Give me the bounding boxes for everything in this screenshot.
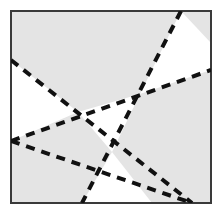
dashed-line-partition-diagram: Dashed lines partitioning a shaded squar… [0, 0, 223, 216]
figure-container: Dashed lines partitioning a shaded squar… [0, 0, 223, 216]
